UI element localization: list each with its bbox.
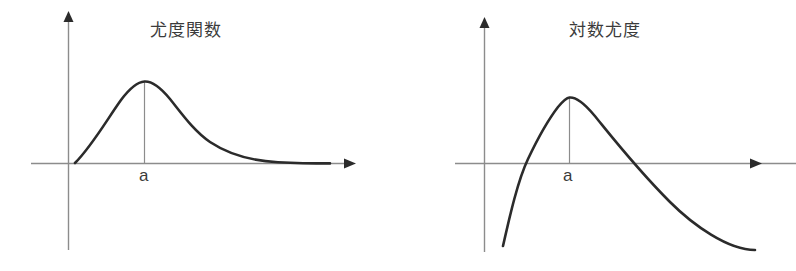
chart-panel-log-likelihood: 対数尤度 a <box>398 0 796 271</box>
x-axis-arrowhead <box>344 159 356 169</box>
peak-label-a: a <box>563 166 572 185</box>
peak-label-a: a <box>139 166 148 185</box>
panel-title-log-likelihood: 対数尤度 <box>569 20 641 40</box>
log-likelihood-curve <box>503 97 755 250</box>
panel-title-likelihood-function: 尤度関数 <box>150 20 222 40</box>
likelihood-curve <box>75 81 330 163</box>
y-axis-arrowhead <box>480 17 490 28</box>
x-axis-arrowhead <box>750 159 762 169</box>
figure-container: 尤度関数 a 対数尤度 a <box>0 0 796 271</box>
chart-panel-likelihood-function: 尤度関数 a <box>0 0 398 271</box>
likelihood-function-plot <box>0 0 398 271</box>
log-likelihood-plot <box>398 0 796 271</box>
y-axis-arrowhead <box>64 11 74 22</box>
